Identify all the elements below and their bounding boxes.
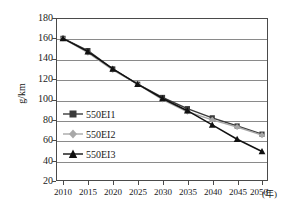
y-tick-label-20: 20: [19, 176, 53, 186]
y-tick-label-100: 100: [19, 94, 53, 104]
y-tick-label-80: 80: [19, 115, 53, 125]
data-point-marker: [259, 148, 266, 154]
x-tick-mark-2020: [113, 181, 114, 185]
x-tick-mark-2015: [88, 181, 89, 185]
x-tick-mark-2050: [262, 181, 263, 185]
x-tick-mark-2040: [213, 181, 214, 185]
legend-marker-diamond-icon: [62, 127, 84, 141]
legend-item-550EI2[interactable]: 550EI2: [62, 124, 140, 144]
legend: 550EI1 550EI2 550EI3: [62, 104, 140, 164]
x-axis-unit-label: (年): [262, 187, 277, 200]
y-tick-label-60: 60: [19, 135, 53, 145]
x-tick-mark-2030: [163, 181, 164, 185]
legend-marker-square-icon: [62, 107, 84, 121]
x-tick-mark-2035: [188, 181, 189, 185]
line-chart: g/km 180 160 140 120 100 80 60 40 20: [0, 0, 291, 212]
legend-label: 550EI1: [84, 109, 115, 120]
legend-item-550EI1[interactable]: 550EI1: [62, 104, 140, 124]
legend-label: 550EI2: [84, 129, 115, 140]
data-point-marker: [209, 122, 216, 128]
x-tick-mark-2010: [63, 181, 64, 185]
y-tick-label-160: 160: [19, 33, 53, 43]
data-point-marker: [234, 136, 241, 142]
y-tick-label-40: 40: [19, 156, 53, 166]
x-tick-mark-2025: [138, 181, 139, 185]
y-tick-mark-20: [52, 181, 56, 182]
legend-marker-triangle-icon: [62, 147, 84, 161]
legend-label: 550EI3: [84, 149, 115, 160]
y-tick-label-180: 180: [19, 13, 53, 23]
y-tick-label-120: 120: [19, 74, 53, 84]
x-tick-mark-2045: [238, 181, 239, 185]
legend-item-550EI3[interactable]: 550EI3: [62, 144, 140, 164]
y-tick-label-140: 140: [19, 53, 53, 63]
